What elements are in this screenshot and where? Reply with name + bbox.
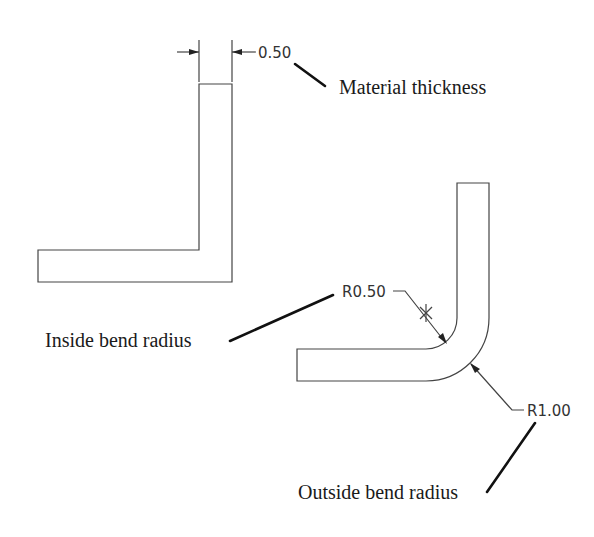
outside-radius-dimension: R1.00 [470, 363, 571, 420]
radiused-bend-part [297, 183, 489, 381]
inside-radius-value: R0.50 [342, 283, 386, 301]
material-thickness-leader [295, 64, 325, 86]
inside-radius-dimension: R0.50 [342, 283, 447, 344]
outside-bend-radius-leader [487, 423, 535, 492]
thickness-value: 0.50 [258, 44, 291, 62]
thickness-dimension: 0.50 [177, 40, 291, 82]
inside-bend-radius-leader [230, 295, 333, 341]
outside-bend-radius-label: Outside bend radius [298, 481, 458, 503]
diagram-canvas: 0.50 Material thickness R0.50 Inside ben… [0, 0, 594, 537]
outside-radius-value: R1.00 [527, 402, 571, 420]
inside-bend-radius-label: Inside bend radius [45, 329, 192, 351]
material-thickness-label: Material thickness [339, 76, 486, 98]
sharp-corner-part [38, 84, 232, 282]
bend-diagram: 0.50 Material thickness R0.50 Inside ben… [0, 0, 594, 537]
